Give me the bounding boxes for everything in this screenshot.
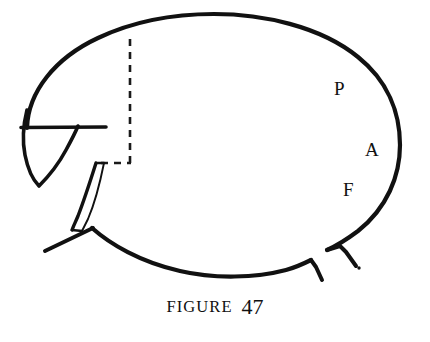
figure-caption: FIGURE47 <box>0 296 430 318</box>
small-dot-mark <box>357 266 360 269</box>
curved-sliver-outer-edge <box>72 163 96 230</box>
annotation-label-p: P <box>334 79 345 98</box>
annotation-label-f: F <box>343 180 354 199</box>
left-wedge-shape <box>24 110 78 186</box>
figure-caption-word: FIGURE <box>166 297 232 316</box>
curved-sliver-bottom-cap <box>72 230 82 231</box>
figure-drawing <box>0 0 430 342</box>
main-oval-outline-upper <box>27 14 400 250</box>
bottom-hook-right <box>327 246 356 266</box>
annotation-label-a: A <box>365 140 379 159</box>
figure-container: P A F FIGURE47 <box>0 0 430 342</box>
figure-caption-number: 47 <box>242 294 264 319</box>
wedge-crossbar-line <box>21 127 106 128</box>
bottom-hook-left <box>311 260 322 280</box>
main-oval-outline-lower <box>92 228 311 277</box>
lower-left-straight-line <box>45 228 93 251</box>
